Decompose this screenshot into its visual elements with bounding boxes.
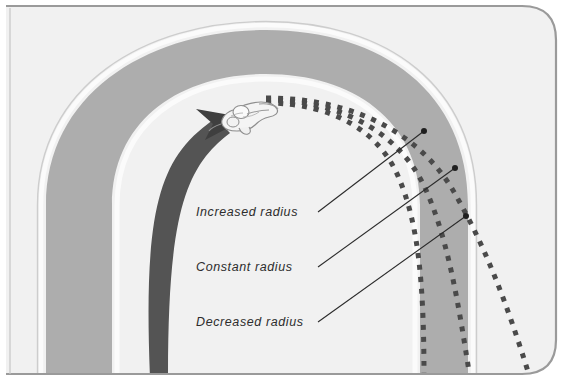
diagram-canvas: Increased radius Constant radius Decreas…	[0, 0, 562, 378]
rider-knee	[227, 117, 239, 127]
leader-dot-decreased	[463, 213, 469, 219]
label-increased-radius: Increased radius	[196, 205, 298, 219]
label-constant-radius: Constant radius	[196, 260, 293, 274]
label-decreased-radius: Decreased radius	[196, 315, 304, 329]
cornering-line-diagram: Increased radius Constant radius Decreas…	[0, 0, 562, 378]
leader-dot-constant	[452, 165, 458, 171]
leader-dot-increased	[421, 128, 427, 134]
